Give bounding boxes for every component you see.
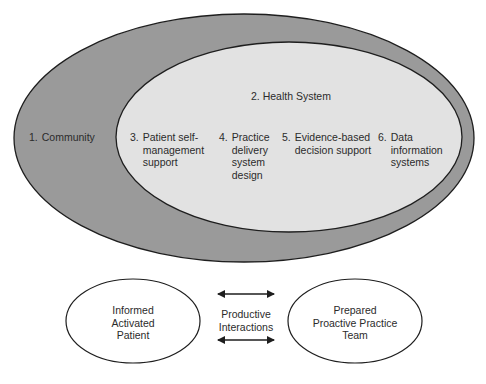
prepared-proactive-practice-team-label: Prepared Proactive Practice Team [285, 304, 425, 342]
health-system-title: 2. Health System [251, 90, 331, 103]
component-patient-self-management: 3. Patient self- management support [130, 131, 204, 169]
community-text: Community [42, 131, 95, 144]
component-line: information [391, 144, 443, 157]
component-evidence-based-decision-support: 5. Evidence-based decision support [282, 131, 371, 156]
component-line: system [232, 156, 270, 169]
component-line: systems [391, 156, 443, 169]
community-number: 1. [29, 131, 38, 144]
component-line: decision support [295, 144, 371, 157]
component-data-information-systems: 6. Data information systems [378, 131, 443, 169]
label-line: Patient [73, 329, 193, 342]
component-line: design [232, 169, 270, 182]
component-line: management [143, 144, 204, 157]
component-line: support [143, 156, 204, 169]
component-line: Evidence-based [295, 131, 371, 144]
label-line: Team [285, 329, 425, 342]
community-label: 1. Community [29, 131, 95, 144]
component-line: Patient self- [143, 131, 204, 144]
label-line: Productive [196, 308, 296, 321]
label-line: Informed [73, 304, 193, 317]
label-line: Proactive Practice [285, 317, 425, 330]
component-number: 4. [219, 131, 228, 181]
label-line: Prepared [285, 304, 425, 317]
component-line: delivery [232, 144, 270, 157]
component-number: 6. [378, 131, 387, 169]
component-number: 5. [282, 131, 291, 156]
informed-activated-patient-label: Informed Activated Patient [73, 304, 193, 342]
label-line: Activated [73, 317, 193, 330]
label-line: Interactions [196, 321, 296, 334]
productive-interactions-label: Productive Interactions [196, 308, 296, 333]
component-practice-delivery-system-design: 4. Practice delivery system design [219, 131, 270, 181]
component-line: Practice [232, 131, 270, 144]
component-line: Data [391, 131, 443, 144]
component-number: 3. [130, 131, 139, 169]
